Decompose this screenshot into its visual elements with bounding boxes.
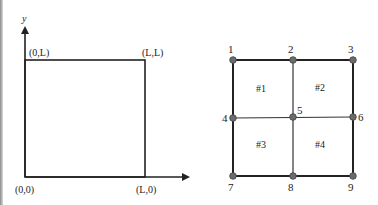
node-label-5: 5 bbox=[297, 104, 303, 116]
corner-label-bottom-right: (L,0) bbox=[136, 184, 156, 196]
element-label-4: #4 bbox=[315, 139, 325, 150]
node-7 bbox=[230, 173, 237, 180]
corner-label-bottom-left: (0,0) bbox=[15, 184, 34, 196]
node-1 bbox=[230, 57, 237, 64]
corner-label-top-right: (L,L) bbox=[142, 47, 163, 59]
mesh-diagram: 1 2 3 4 5 6 7 8 9 #1 #2 #3 #4 bbox=[222, 43, 364, 193]
node-label-7: 7 bbox=[228, 181, 234, 193]
element-label-2: #2 bbox=[315, 82, 325, 93]
node-label-1: 1 bbox=[228, 43, 234, 55]
element-label-3: #3 bbox=[256, 139, 266, 150]
node-label-6: 6 bbox=[358, 111, 364, 123]
domain-square-diagram: y (0,L) (L,L) (0,0) (L,0) bbox=[15, 13, 188, 196]
node-4 bbox=[230, 115, 237, 122]
domain-square bbox=[25, 60, 145, 177]
node-label-4: 4 bbox=[222, 112, 228, 124]
node-3 bbox=[350, 57, 357, 64]
y-axis-label: y bbox=[21, 13, 27, 24]
node-8 bbox=[290, 173, 297, 180]
node-label-3: 3 bbox=[348, 43, 354, 55]
corner-label-top-left: (0,L) bbox=[29, 47, 49, 59]
node-5 bbox=[290, 114, 297, 121]
node-label-8: 8 bbox=[288, 181, 294, 193]
diagram-canvas: y (0,L) (L,L) (0,0) (L,0) 1 2 3 4 5 6 7 … bbox=[0, 0, 378, 205]
node-label-2: 2 bbox=[288, 43, 294, 55]
node-2 bbox=[290, 57, 297, 64]
element-label-1: #1 bbox=[256, 83, 266, 94]
node-label-9: 9 bbox=[348, 181, 354, 193]
node-6 bbox=[350, 114, 357, 121]
node-9 bbox=[350, 173, 357, 180]
